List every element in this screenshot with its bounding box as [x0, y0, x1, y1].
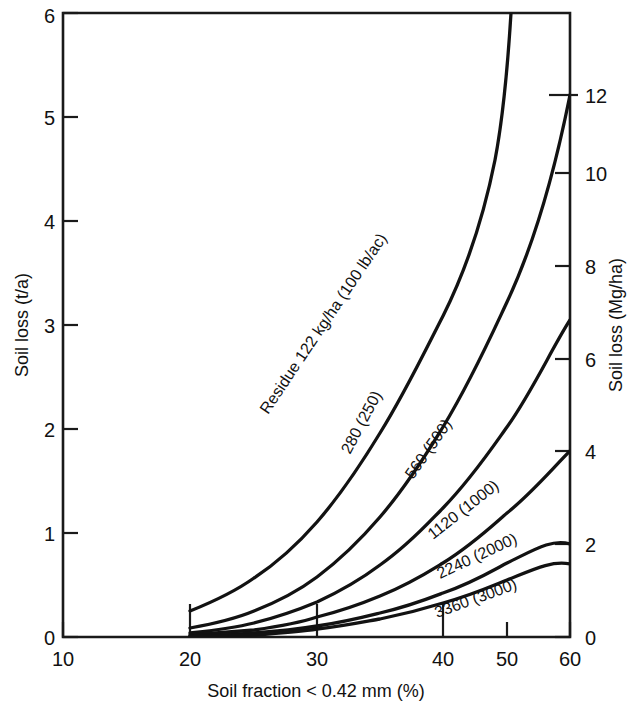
y-left-label-4: 4 — [44, 211, 55, 233]
x-label-20: 20 — [179, 648, 201, 670]
curve-labels-group: Residue 122 kg/ha (100 lb/ac) 280 (250) … — [256, 230, 519, 621]
x-label-50: 50 — [496, 648, 518, 670]
y-left-label-3: 3 — [44, 315, 55, 337]
y-right-label-6: 6 — [585, 349, 596, 371]
curve-label-3360-3000: 3360 (3000) — [432, 575, 519, 620]
x-axis-title: Soil fraction < 0.42 mm (%) — [207, 681, 425, 701]
y-left-label-0: 0 — [44, 627, 55, 649]
y-left-label-1: 1 — [44, 523, 55, 545]
y-left-axis-title: Soil loss (t/a) — [12, 273, 32, 377]
x-label-40: 40 — [432, 648, 454, 670]
y-right-tick-labels: 0 2 4 6 8 10 12 — [585, 85, 607, 649]
y-right-label-2: 2 — [585, 534, 596, 556]
y-left-label-5: 5 — [44, 107, 55, 129]
x-label-60: 60 — [559, 648, 581, 670]
y-right-label-0: 0 — [585, 627, 596, 649]
x-tick-labels: 10 20 30 40 50 60 — [52, 648, 581, 670]
figure-container: 0 1 2 3 4 5 6 0 2 4 6 8 10 12 — [0, 0, 641, 705]
y-right-label-12: 12 — [585, 85, 607, 107]
y-left-ticks — [63, 13, 78, 637]
x-label-30: 30 — [306, 648, 328, 670]
y-right-label-4: 4 — [585, 441, 596, 463]
curve-label-560-500: 560 (500) — [402, 416, 455, 482]
soil-loss-chart: 0 1 2 3 4 5 6 0 2 4 6 8 10 12 — [0, 0, 641, 705]
curve-label-280-250: 280 (250) — [338, 388, 385, 456]
y-right-axis-title: Soil loss (Mg/ha) — [606, 258, 626, 392]
curve-residue-122 — [190, 13, 511, 611]
y-right-label-10: 10 — [585, 163, 607, 185]
y-left-label-6: 6 — [44, 5, 55, 27]
x-ticks — [63, 604, 570, 637]
y-right-ticks — [549, 95, 578, 637]
y-right-label-8: 8 — [585, 256, 596, 278]
x-label-10: 10 — [52, 648, 74, 670]
y-left-tick-labels: 0 1 2 3 4 5 6 — [44, 5, 55, 649]
y-left-label-2: 2 — [44, 419, 55, 441]
